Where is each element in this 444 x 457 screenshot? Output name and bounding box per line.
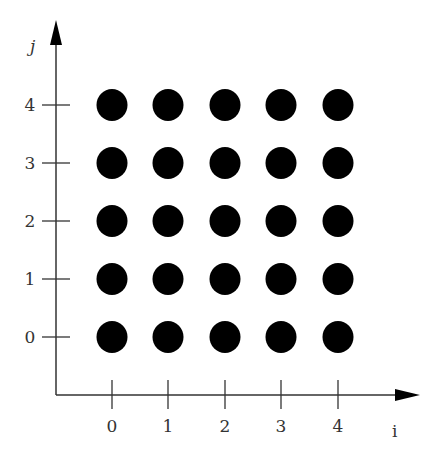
iteration-space-diagram: 01234 01234 j i bbox=[0, 0, 444, 457]
grid-point bbox=[97, 147, 128, 179]
grid-point bbox=[210, 89, 241, 121]
grid-point bbox=[266, 205, 297, 237]
x-tick-label: 4 bbox=[333, 416, 344, 436]
grid-point bbox=[97, 321, 128, 353]
grid-point bbox=[266, 147, 297, 179]
y-tick-label: 3 bbox=[25, 153, 36, 173]
y-tick-label: 1 bbox=[25, 269, 36, 289]
grid-point bbox=[323, 205, 354, 237]
y-tick-label: 0 bbox=[25, 327, 36, 347]
grid-point bbox=[153, 205, 184, 237]
grid-point bbox=[323, 89, 354, 121]
grid-point bbox=[266, 89, 297, 121]
y-tick-label: 2 bbox=[25, 211, 36, 231]
x-tick-label: 2 bbox=[220, 416, 231, 436]
y-axis-label: j bbox=[26, 36, 36, 56]
x-axis-arrow-icon bbox=[395, 389, 420, 401]
grid-points bbox=[97, 89, 354, 353]
grid-point bbox=[153, 263, 184, 295]
y-tick-label: 4 bbox=[25, 95, 36, 115]
grid-point bbox=[323, 321, 354, 353]
grid-point bbox=[210, 147, 241, 179]
grid-point bbox=[153, 321, 184, 353]
y-axis-arrow-icon bbox=[50, 20, 62, 45]
x-tick-label: 1 bbox=[163, 416, 174, 436]
x-tick-label: 0 bbox=[107, 416, 118, 436]
grid-point bbox=[323, 147, 354, 179]
grid-point bbox=[210, 321, 241, 353]
x-tick-label: 3 bbox=[276, 416, 287, 436]
grid-point bbox=[323, 263, 354, 295]
grid-point bbox=[153, 89, 184, 121]
grid-point bbox=[210, 263, 241, 295]
grid-point bbox=[266, 263, 297, 295]
grid-point bbox=[97, 205, 128, 237]
grid-point bbox=[97, 263, 128, 295]
grid-point bbox=[210, 205, 241, 237]
x-ticks: 01234 bbox=[107, 380, 344, 436]
y-ticks: 01234 bbox=[25, 95, 70, 347]
grid-point bbox=[153, 147, 184, 179]
grid-point bbox=[97, 89, 128, 121]
x-axis-label: i bbox=[392, 421, 398, 441]
grid-point bbox=[266, 321, 297, 353]
